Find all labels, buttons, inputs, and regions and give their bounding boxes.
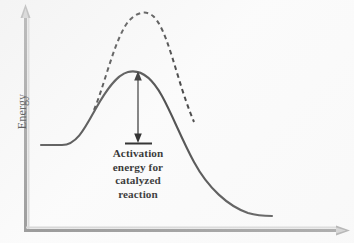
- figure-canvas: Energy Activation energy for catalyzed r…: [0, 0, 354, 243]
- activation-energy-annotation: Activation energy for catalyzed reaction: [83, 147, 193, 201]
- y-axis-label: Energy: [15, 74, 30, 150]
- annotation-line-1: Activation: [83, 147, 193, 161]
- annotation-line-4: reaction: [83, 188, 193, 202]
- activation-energy-arrow: [134, 71, 142, 143]
- x-axis: [24, 226, 350, 236]
- energy-diagram-plot: [0, 0, 354, 243]
- uncatalyzed-curve: [94, 13, 194, 122]
- annotation-line-3: catalyzed: [83, 174, 193, 188]
- annotation-line-2: energy for: [83, 161, 193, 175]
